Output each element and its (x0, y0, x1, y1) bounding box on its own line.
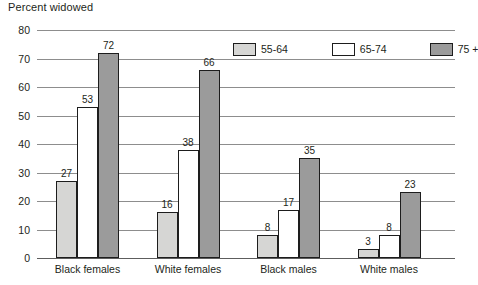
bar-value-label: 35 (304, 145, 315, 156)
bar-value-label: 23 (404, 179, 415, 190)
bar-value-label: 3 (365, 236, 371, 247)
legend-swatch (233, 43, 256, 56)
bar (98, 53, 119, 258)
bar (257, 235, 278, 258)
bar-value-label: 72 (103, 40, 114, 51)
legend-item: 55-64 (233, 43, 288, 56)
bar (56, 181, 77, 258)
bar-value-label: 8 (265, 222, 271, 233)
category-label: White females (155, 263, 222, 275)
legend-label: 75 + (458, 43, 478, 55)
y-axis-tick-label: 30 (18, 167, 30, 179)
y-axis-tick-label: 40 (18, 138, 30, 150)
bar-value-label: 8 (386, 222, 392, 233)
legend-item: 75 + (430, 43, 478, 56)
bar (178, 150, 199, 258)
bar-value-label: 38 (182, 137, 193, 148)
legend-label: 65-74 (360, 43, 387, 55)
bar (157, 212, 178, 258)
bars-layer: 275372163866817353823 (37, 30, 455, 258)
category-label: White males (360, 263, 418, 275)
bar (358, 249, 379, 258)
legend-swatch (332, 43, 355, 56)
category-label: Black males (260, 263, 317, 275)
bar-value-label: 17 (283, 197, 294, 208)
chart-legend: 55-6465-7475 + (233, 40, 478, 58)
bar-value-label: 66 (203, 57, 214, 68)
plot-area: 01020304050607080 275372163866817353823 (37, 30, 455, 258)
y-axis-tick-label: 0 (24, 252, 30, 264)
bar-value-label: 27 (61, 168, 72, 179)
chart-title: Percent widowed (8, 1, 93, 13)
bar (199, 70, 220, 258)
y-axis-tick-label: 80 (18, 24, 30, 36)
bar-value-label: 53 (82, 94, 93, 105)
category-label: Black females (55, 263, 120, 275)
y-axis-tick-label: 70 (18, 53, 30, 65)
legend-label: 55-64 (261, 43, 288, 55)
gridline (37, 258, 455, 259)
legend-item: 65-74 (332, 43, 387, 56)
y-axis-tick-label: 20 (18, 195, 30, 207)
y-axis-tick-label: 50 (18, 110, 30, 122)
bar (77, 107, 98, 258)
bar (379, 235, 400, 258)
bar (278, 210, 299, 258)
bar (299, 158, 320, 258)
y-axis-tick-label: 10 (18, 224, 30, 236)
legend-swatch (430, 43, 453, 56)
y-axis-tick-label: 60 (18, 81, 30, 93)
bar-value-label: 16 (161, 199, 172, 210)
bar (400, 192, 421, 258)
